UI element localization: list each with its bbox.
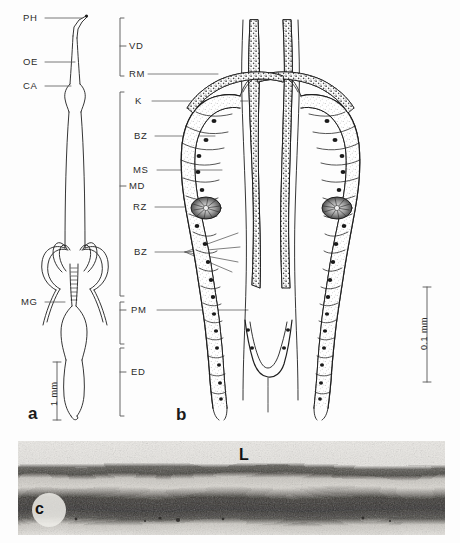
panel-label-c: c [35,501,44,517]
scale-label-b: 0.1 mm [420,317,429,350]
label-k: K [135,96,142,106]
micrograph-image [18,441,445,535]
panel-a-drawing [42,14,109,419]
label-pm: PM [131,305,146,315]
panel-c-micrograph [18,441,445,535]
label-bz-lower: BZ [134,247,147,257]
label-ed: ED [131,367,145,377]
figure-root: PH OE CA MG 1 mm a VD RM K BZ MS MD RZ B… [0,0,460,543]
panel-label-b: b [176,406,186,423]
label-ph: PH [23,13,37,23]
label-ms: MS [133,165,148,175]
label-md: MD [129,181,145,191]
label-bz-upper: BZ [134,131,147,141]
label-rm: RM [129,69,145,79]
label-ca: CA [23,81,37,91]
panel-b-drawing [181,20,360,420]
label-rz: RZ [133,202,147,212]
label-oe: OE [23,57,38,67]
panel-label-a: a [28,405,37,422]
label-vd: VD [129,41,143,51]
scale-label-a: 1 mm [50,382,59,407]
panel-b-leaders [148,74,248,310]
label-l: L [239,447,249,463]
label-mg: MG [21,297,38,307]
panel-b-brackets [120,18,126,416]
panel-a-leaders [45,18,82,302]
